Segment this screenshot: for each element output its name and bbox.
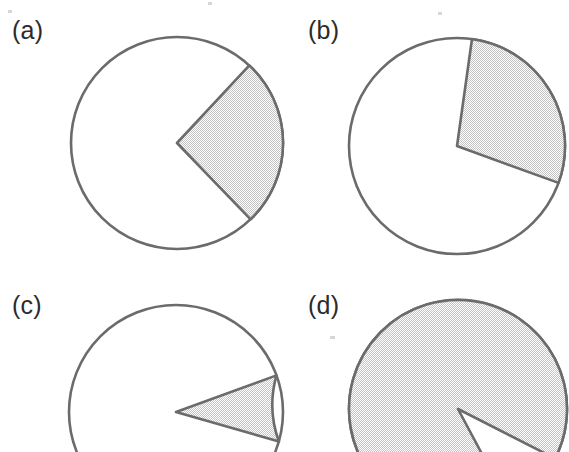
panel-d: (d) xyxy=(290,275,569,452)
sector-diagram-a xyxy=(0,0,290,270)
sector-diagram-c xyxy=(0,275,290,452)
panel-b: (b) xyxy=(290,0,569,270)
panel-a: (a) xyxy=(0,0,290,270)
sector-diagram-d xyxy=(290,275,569,452)
sector-diagram-b xyxy=(290,0,569,270)
figure-canvas: (a) (b) (c) (d) xyxy=(0,0,569,452)
panel-c: (c) xyxy=(0,275,290,452)
shaded-sector-d xyxy=(349,300,567,452)
